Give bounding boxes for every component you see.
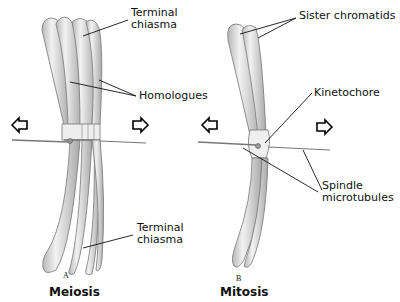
label-homologues: Homologues	[139, 90, 208, 102]
label-line: chiasma	[137, 234, 184, 246]
label-spindle-microtubules: Spindle microtubules	[322, 180, 394, 204]
label-terminal-chiasma-bottom: Terminal chiasma	[137, 222, 184, 246]
panel-letter-b: B	[236, 274, 241, 283]
panel-title-meiosis: Meiosis	[49, 285, 100, 299]
label-terminal-chiasma-top: Terminal chiasma	[131, 7, 178, 31]
label-line: microtubules	[322, 192, 394, 204]
panel-letter-a: A	[63, 271, 69, 280]
leader-lines	[70, 18, 322, 248]
label-kinetochore: Kinetochore	[314, 87, 380, 99]
label-sister-chromatids: Sister chromatids	[299, 10, 395, 22]
label-line: chiasma	[131, 19, 178, 31]
arrow-left-icon	[202, 118, 217, 132]
meiosis-bivalent	[12, 17, 146, 274]
panel-title-mitosis: Mitosis	[220, 285, 268, 299]
mitosis-chromosome	[198, 24, 330, 267]
diagram-canvas	[0, 0, 400, 302]
arrow-right-icon	[133, 118, 148, 132]
arrow-left-icon	[12, 118, 27, 132]
arrow-right-icon	[317, 120, 332, 134]
